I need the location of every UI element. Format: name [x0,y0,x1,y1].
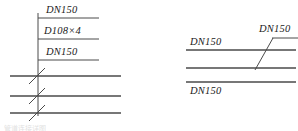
left-label-bottom: DN150 [46,47,77,58]
right-transition-diagonal [255,38,273,70]
left-label-top: DN150 [46,5,77,16]
right-label-upper-right: DN150 [259,24,290,35]
left-label-middle: D108×4 [44,26,81,37]
pipe-detail-drawing: DN150 D108×4 DN150 DN150 DN150 DN150 管道连… [0,0,298,131]
right-label-lower: DN150 [190,86,221,97]
right-label-upper-left: DN150 [190,37,221,48]
drawing-vector-layer [0,0,298,131]
caption-fragment: 管道连接详图 [4,123,46,131]
